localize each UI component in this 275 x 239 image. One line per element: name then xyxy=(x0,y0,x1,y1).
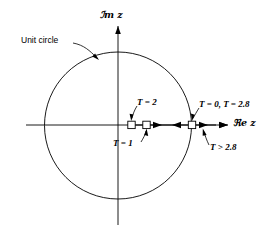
unit-circle-label: Unit circle xyxy=(21,36,58,45)
leader-T-gt xyxy=(203,129,209,146)
complex-plane-root-locus-figure: Unit circle ℐm z ℜe z T = 2 T = 1 T = 0,… xyxy=(0,0,275,239)
annotation-label-t-greater: T > 2.8 xyxy=(210,143,236,152)
marker-square-T1 xyxy=(143,121,150,128)
marker-square-T2 xyxy=(128,121,135,128)
marker-label-T2: T = 2 xyxy=(137,98,157,107)
direction-arrow-left-inner xyxy=(172,122,181,128)
marker-label-T1: T = 1 xyxy=(113,139,133,148)
leader-T0-T28 xyxy=(191,108,199,121)
direction-arrow-right-inner xyxy=(153,122,162,128)
marker-square-T0-T28 xyxy=(188,121,195,128)
leader-T1 xyxy=(141,129,148,142)
real-axis-label: ℜe z xyxy=(233,118,256,128)
leader-T2 xyxy=(130,106,137,121)
direction-arrow-right-outer-1 xyxy=(199,122,208,128)
imaginary-axis-label: ℐm z xyxy=(100,10,123,20)
imaginary-axis xyxy=(115,26,121,225)
marker-label-T0-T28: T = 0, T = 2.8 xyxy=(199,100,250,109)
unit-circle-leader xyxy=(73,43,99,60)
direction-arrow-right-outer-2 xyxy=(219,122,228,128)
